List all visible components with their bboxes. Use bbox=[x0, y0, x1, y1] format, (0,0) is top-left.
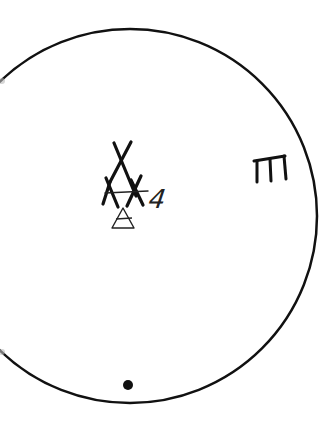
outer-circle bbox=[0, 29, 317, 403]
comb-glyph-icon bbox=[254, 156, 286, 182]
diagram-canvas: 4 bbox=[0, 0, 334, 442]
small-triangle-icon bbox=[112, 208, 134, 228]
dot-marker-icon bbox=[123, 380, 133, 390]
diagram-svg bbox=[0, 0, 334, 442]
teepee-cross-icon bbox=[103, 142, 143, 207]
